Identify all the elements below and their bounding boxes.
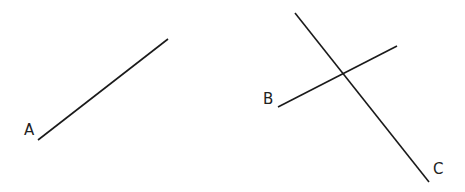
line-c [295,13,429,182]
label-c: C [433,160,443,178]
line-diagram: A B C [0,0,465,192]
line-a [38,39,168,140]
line-b [278,46,397,107]
label-b: B [263,90,273,108]
label-a: A [24,121,35,139]
